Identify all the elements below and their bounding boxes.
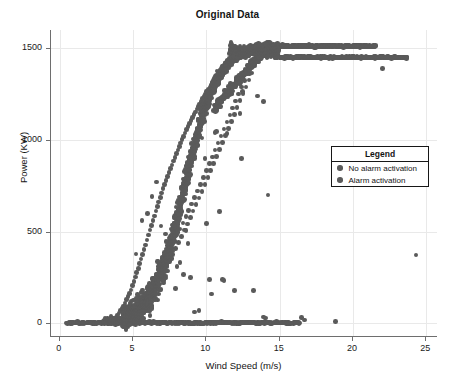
scatter-point — [208, 168, 213, 173]
scatter-point — [414, 253, 419, 258]
scatter-point — [203, 156, 208, 161]
x-axis-tick — [59, 337, 60, 341]
scatter-point — [226, 126, 231, 131]
scatter-point — [132, 279, 137, 284]
scatter-point — [188, 172, 193, 177]
scatter-point — [152, 214, 157, 219]
scatter-point — [141, 316, 146, 321]
scatter-point — [140, 252, 145, 257]
legend-marker-icon — [337, 177, 343, 183]
legend-entry-label: No alarm activation — [349, 164, 417, 173]
scatter-point — [202, 116, 207, 121]
scatter-point — [209, 292, 214, 297]
scatter-point — [188, 275, 193, 280]
scatter-point — [161, 186, 166, 191]
x-axis-tick-label: 25 — [405, 343, 445, 353]
scatter-point — [188, 215, 193, 220]
legend-marker-icon — [337, 165, 343, 171]
scatter-point — [197, 196, 202, 201]
scatter-point — [247, 71, 252, 76]
scatter-point — [165, 269, 170, 274]
x-axis-tick-label: 15 — [259, 343, 299, 353]
scatter-point — [136, 266, 141, 271]
scatter-point — [203, 182, 208, 187]
y-axis-tick-label: 0 — [0, 317, 42, 327]
scatter-point — [181, 272, 186, 277]
scatter-point — [238, 98, 243, 103]
scatter-point — [251, 288, 256, 293]
scatter-point — [142, 247, 147, 252]
scatter-point — [197, 308, 202, 313]
scatter-point — [155, 204, 160, 209]
scatter-point — [214, 129, 219, 134]
scatter-point — [373, 44, 378, 49]
scatter-point — [139, 257, 144, 262]
scatter-point — [244, 85, 249, 90]
scatter-point — [218, 104, 223, 109]
scatter-point — [192, 154, 197, 159]
scatter-point — [170, 256, 175, 261]
scatter-point — [179, 234, 184, 239]
scatter-point — [133, 275, 138, 280]
scatter-point — [178, 260, 183, 265]
legend-entry[interactable]: No alarm activation — [332, 162, 428, 174]
scatter-point — [220, 140, 225, 145]
scatter-point — [206, 175, 211, 180]
x-axis-tick-label: 5 — [112, 343, 152, 353]
scatter-point — [130, 283, 135, 288]
x-axis-tick — [425, 337, 426, 341]
scatter-point — [302, 318, 307, 323]
scatter-point — [165, 174, 170, 179]
scatter-point — [211, 161, 216, 166]
scatter-point — [222, 278, 227, 283]
scatter-point — [217, 147, 222, 152]
scatter-point — [172, 239, 177, 244]
scatter-point — [380, 66, 385, 71]
y-axis-label: Power (KW) — [18, 88, 29, 228]
scatter-point — [276, 55, 281, 60]
scatter-point — [154, 209, 159, 214]
scatter-point — [159, 287, 164, 292]
scatter-point — [204, 221, 209, 226]
scatter-point — [207, 277, 212, 282]
chart-title: Original Data — [0, 9, 455, 20]
x-axis-tick-label: 10 — [185, 343, 225, 353]
scatter-point — [238, 80, 243, 85]
scatter-point — [170, 249, 175, 254]
scatter-point — [148, 313, 153, 318]
scatter-point — [146, 233, 151, 238]
scatter-point — [149, 223, 154, 228]
scatter-point — [247, 78, 252, 83]
scatter-point — [230, 89, 235, 94]
scatter-point — [238, 111, 243, 116]
y-axis-tick — [46, 140, 50, 141]
scatter-point — [165, 264, 170, 269]
scatter-point — [156, 200, 161, 205]
chart-figure: Original Data 0510152025050010001500 Win… — [0, 0, 455, 387]
scatter-point — [187, 181, 192, 186]
scatter-point — [195, 143, 200, 148]
scatter-point — [140, 218, 145, 223]
scatter-point — [145, 211, 150, 216]
scatter-point — [240, 89, 245, 94]
legend-entry[interactable]: Alarm activation — [332, 174, 428, 186]
scatter-point — [239, 156, 244, 161]
scatter-point — [159, 191, 164, 196]
x-axis-tick — [132, 337, 133, 341]
scatter-point — [333, 319, 338, 324]
scatter-point — [134, 252, 139, 257]
scatter-point — [194, 202, 199, 207]
x-axis-tick — [279, 337, 280, 341]
scatter-point — [137, 261, 142, 266]
scatter-point — [210, 96, 215, 101]
scatter-point — [158, 195, 163, 200]
legend-title: Legend — [332, 147, 428, 162]
x-axis-tick-label: 0 — [39, 343, 79, 353]
scatter-point — [159, 224, 164, 229]
scatter-point — [266, 193, 271, 198]
scatter-point — [225, 131, 230, 136]
scatter-point — [184, 228, 189, 233]
legend-entries: No alarm activationAlarm activation — [332, 162, 428, 186]
scatter-point — [163, 274, 168, 279]
scatter-point — [197, 134, 202, 139]
